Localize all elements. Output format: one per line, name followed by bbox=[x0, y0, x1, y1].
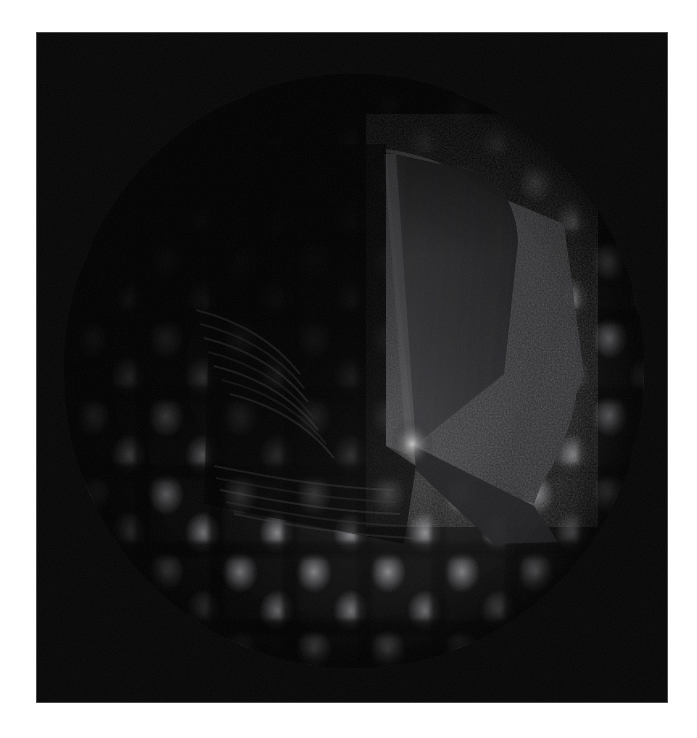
sphere-stage bbox=[64, 74, 644, 668]
global-rim-pass bbox=[64, 74, 644, 668]
render-alt-text: Dark three dimensional render of a check… bbox=[0, 0, 1, 1]
render-panel[interactable] bbox=[36, 32, 668, 703]
page-canvas: Dark three dimensional render of a check… bbox=[0, 0, 697, 738]
